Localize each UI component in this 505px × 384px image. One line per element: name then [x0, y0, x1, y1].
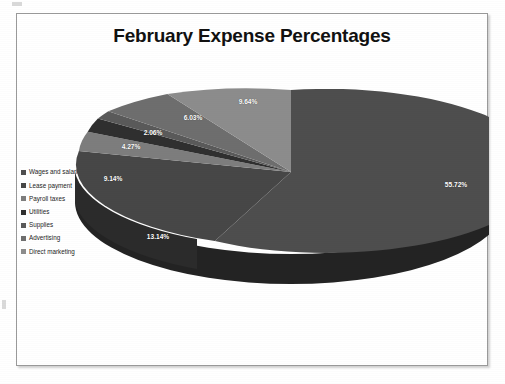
data-label-payroll-taxes: 9.14% [104, 175, 123, 182]
data-label-advertising: 6.03% [184, 114, 203, 121]
scan-artifact [12, 2, 22, 6]
scan-artifact [2, 300, 6, 309]
chart-frame: February Expense Percentages Wages and s… [16, 13, 488, 366]
screenshot-root: February Expense Percentages Wages and s… [0, 0, 505, 384]
data-label-supplies: 2.06% [144, 129, 163, 136]
data-label-direct-marketing: 9.64% [239, 98, 258, 105]
pie-svg [17, 14, 489, 367]
data-label-wages-and-salaries: 55.72% [445, 181, 467, 188]
data-label-utilities: 4.27% [122, 143, 141, 150]
pie-chart: 55.72% 13.14% 9.14% 4.27% 2.06% 6.03% 9.… [17, 14, 487, 365]
data-label-lease-payment: 13.14% [147, 233, 169, 240]
